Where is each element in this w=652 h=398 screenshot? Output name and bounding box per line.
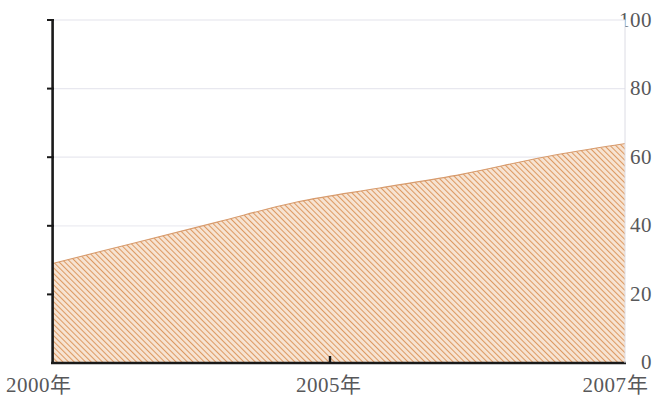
- area-chart: 100 80 60 40 20 0 2000年 2005年 2007年: [0, 0, 652, 398]
- plot-area: [0, 0, 652, 398]
